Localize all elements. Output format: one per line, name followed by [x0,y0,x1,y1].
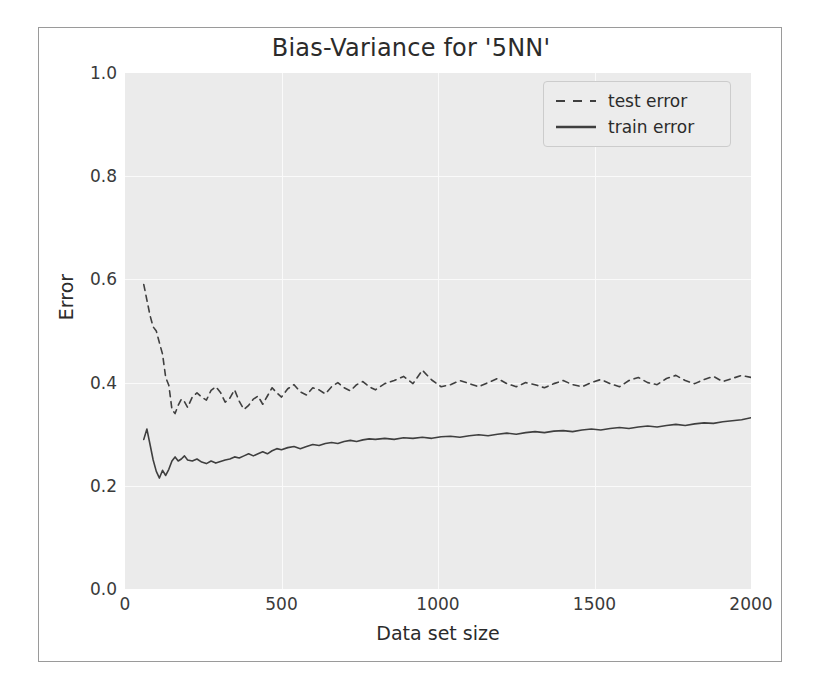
x-tick-label: 2000 [729,594,772,614]
y-tick-label: 0.0 [41,579,117,599]
legend-label-train-error: train error [608,117,694,137]
x-tick-label: 500 [265,594,297,614]
x-axis-label: Data set size [125,622,751,644]
y-axis-ticks: 0.00.20.40.60.81.0 [39,73,117,589]
y-tick-label: 0.4 [41,373,117,393]
plot-area [125,73,751,589]
data-curves [125,73,751,589]
legend-item-train-error: train error [554,114,720,140]
solid-line-swatch-icon [554,120,598,134]
series-line-train-error [144,418,751,478]
y-axis-label: Error [55,237,77,357]
figure-frame: Bias-Variance for '5NN' 0.00.20.40.60.81… [38,27,782,662]
legend-item-test-error: test error [554,88,720,114]
x-axis-ticks: 0500100015002000 [125,594,751,622]
y-tick-label: 0.8 [41,166,117,186]
y-tick-label: 0.6 [41,269,117,289]
y-tick-label: 1.0 [41,63,117,83]
series-line-test-error [144,285,751,414]
x-tick-label: 0 [120,594,131,614]
chart-title: Bias-Variance for '5NN' [39,34,783,62]
x-tick-label: 1000 [416,594,459,614]
x-tick-label: 1500 [573,594,616,614]
dashed-line-swatch-icon [554,94,598,108]
legend-label-test-error: test error [608,91,687,111]
legend: test error train error [543,81,731,147]
y-tick-label: 0.2 [41,476,117,496]
